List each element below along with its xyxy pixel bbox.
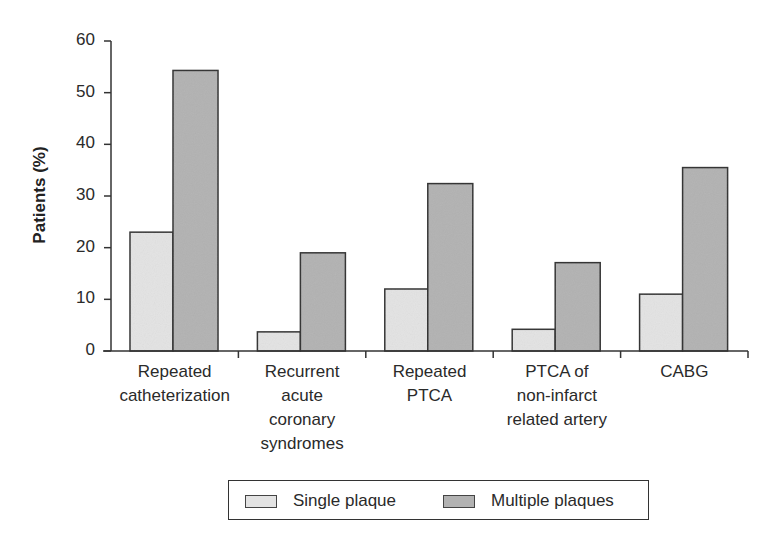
bar-texture	[173, 70, 218, 351]
bar-texture	[130, 232, 173, 351]
plot-area	[0, 0, 772, 547]
y-tick-label: 40	[55, 133, 95, 153]
bar-texture	[640, 294, 683, 351]
x-category-label: CABG	[619, 360, 749, 384]
x-category-label: RepeatedPTCA	[365, 360, 495, 408]
bar-texture	[385, 289, 428, 351]
bar-texture	[257, 332, 300, 351]
bar-texture	[300, 253, 345, 351]
x-category-label: Repeatedcatheterization	[110, 360, 240, 408]
bar-chart: Patients (%) 0102030405060 Repeatedcathe…	[0, 0, 772, 547]
bar-texture	[428, 184, 473, 351]
bar-texture	[555, 263, 600, 351]
legend-item-multiple-plaques: Multiple plaques	[443, 481, 614, 521]
y-tick-label: 20	[55, 237, 95, 257]
legend: Single plaque Multiple plaques	[228, 480, 649, 520]
x-category-label: PTCA ofnon-infarctrelated artery	[492, 360, 622, 432]
legend-label: Multiple plaques	[491, 491, 614, 511]
y-axis-label: Patients (%)	[30, 146, 50, 243]
y-tick-label: 0	[55, 340, 95, 360]
y-tick-label: 50	[55, 82, 95, 102]
legend-swatch-single-plaque	[245, 495, 277, 508]
legend-item-single-plaque: Single plaque	[245, 481, 396, 521]
y-tick-label: 10	[55, 288, 95, 308]
bar-texture	[512, 329, 555, 351]
y-tick-label: 30	[55, 185, 95, 205]
legend-label: Single plaque	[293, 491, 396, 511]
legend-swatch-multiple-plaques	[443, 495, 475, 508]
y-tick-label: 60	[55, 30, 95, 50]
bar-texture	[683, 168, 728, 351]
x-category-label: Recurrentacutecoronarysyndromes	[237, 360, 367, 456]
